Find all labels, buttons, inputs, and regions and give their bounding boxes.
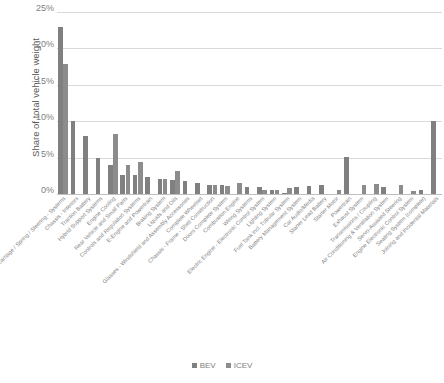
bar-group[interactable] bbox=[430, 12, 442, 194]
bar-icev[interactable] bbox=[213, 185, 218, 194]
legend-swatch-icev bbox=[226, 363, 231, 368]
bar-group[interactable] bbox=[181, 12, 193, 194]
bar-group[interactable] bbox=[218, 12, 230, 194]
bar-group[interactable] bbox=[318, 12, 330, 194]
bar-bev[interactable] bbox=[83, 136, 88, 194]
bar-group[interactable] bbox=[256, 12, 268, 194]
bar-bev[interactable] bbox=[158, 179, 163, 194]
bar-group[interactable] bbox=[368, 12, 380, 194]
bar-group[interactable] bbox=[305, 12, 317, 194]
bar-group[interactable] bbox=[231, 12, 243, 194]
bar-bev[interactable] bbox=[170, 180, 175, 194]
bar-group[interactable] bbox=[94, 12, 106, 194]
bar-icev[interactable] bbox=[163, 179, 168, 194]
bar-bev[interactable] bbox=[245, 187, 250, 194]
bar-bev[interactable] bbox=[431, 121, 436, 194]
bar-icev[interactable] bbox=[113, 134, 118, 194]
plot-area bbox=[57, 12, 442, 194]
bar-group[interactable] bbox=[380, 12, 392, 194]
bar-group[interactable] bbox=[268, 12, 280, 194]
bar-icev[interactable] bbox=[138, 162, 143, 194]
bar-bev[interactable] bbox=[120, 175, 125, 194]
bar-icev[interactable] bbox=[262, 190, 267, 194]
bar-bev[interactable] bbox=[207, 185, 212, 194]
bar-bev[interactable] bbox=[381, 187, 386, 194]
bar-bev[interactable] bbox=[58, 27, 63, 194]
bar-icev[interactable] bbox=[287, 188, 292, 194]
bar-icev[interactable] bbox=[337, 190, 342, 194]
bar-group[interactable] bbox=[243, 12, 255, 194]
bar-bev[interactable] bbox=[282, 193, 287, 194]
bar-icev[interactable] bbox=[374, 184, 379, 194]
bar-icev[interactable] bbox=[175, 171, 180, 194]
bar-bev[interactable] bbox=[257, 187, 262, 194]
bar-group[interactable] bbox=[330, 12, 342, 194]
legend-item-icev[interactable]: ICEV bbox=[226, 361, 253, 370]
bar-series-group bbox=[57, 12, 442, 194]
bar-icev[interactable] bbox=[362, 185, 367, 194]
bar-group[interactable] bbox=[132, 12, 144, 194]
bar-group[interactable] bbox=[194, 12, 206, 194]
bar-group[interactable] bbox=[355, 12, 367, 194]
chart-container: Share of total vehicle weight 0%5%10%15%… bbox=[0, 0, 444, 383]
legend-label-icev: ICEV bbox=[234, 361, 253, 370]
bar-group[interactable] bbox=[293, 12, 305, 194]
bar-group[interactable] bbox=[169, 12, 181, 194]
bar-icev[interactable] bbox=[411, 191, 416, 194]
bar-group[interactable] bbox=[281, 12, 293, 194]
bar-group[interactable] bbox=[392, 12, 404, 194]
y-tick-label: 0% bbox=[41, 186, 54, 195]
bar-bev[interactable] bbox=[220, 185, 225, 194]
bar-group[interactable] bbox=[417, 12, 429, 194]
legend-label-bev: BEV bbox=[200, 361, 216, 370]
bar-bev[interactable] bbox=[145, 177, 150, 194]
bar-bev[interactable] bbox=[319, 185, 324, 194]
legend-swatch-bev bbox=[192, 363, 197, 368]
bar-group[interactable] bbox=[206, 12, 218, 194]
bar-icev[interactable] bbox=[237, 183, 242, 194]
y-tick-label: 20% bbox=[36, 40, 54, 49]
chart-legend: BEV ICEV bbox=[0, 361, 444, 370]
bar-group[interactable] bbox=[144, 12, 156, 194]
bar-icev[interactable] bbox=[225, 186, 230, 194]
bar-bev[interactable] bbox=[108, 165, 113, 194]
bar-group[interactable] bbox=[343, 12, 355, 194]
bar-group[interactable] bbox=[82, 12, 94, 194]
bar-group[interactable] bbox=[57, 12, 69, 194]
bar-bev[interactable] bbox=[307, 186, 312, 194]
bar-bev[interactable] bbox=[71, 121, 76, 194]
legend-item-bev[interactable]: BEV bbox=[192, 361, 216, 370]
bar-group[interactable] bbox=[405, 12, 417, 194]
bar-group[interactable] bbox=[107, 12, 119, 194]
bar-bev[interactable] bbox=[96, 158, 101, 194]
bar-group[interactable] bbox=[119, 12, 131, 194]
bar-bev[interactable] bbox=[270, 190, 275, 194]
bar-bev[interactable] bbox=[183, 181, 188, 194]
y-tick-label: 15% bbox=[36, 76, 54, 85]
bar-group[interactable] bbox=[156, 12, 168, 194]
bar-icev[interactable] bbox=[63, 64, 68, 194]
bar-bev[interactable] bbox=[344, 157, 349, 194]
y-tick-label: 5% bbox=[41, 149, 54, 158]
bar-bev[interactable] bbox=[419, 190, 424, 194]
y-tick-label: 10% bbox=[36, 113, 54, 122]
bar-icev[interactable] bbox=[275, 190, 280, 194]
bar-bev[interactable] bbox=[133, 175, 138, 194]
bar-group[interactable] bbox=[69, 12, 81, 194]
bar-bev[interactable] bbox=[195, 183, 200, 194]
y-axis-tick-labels: 0%5%10%15%20%25% bbox=[18, 8, 54, 196]
bar-bev[interactable] bbox=[294, 187, 299, 194]
bar-icev[interactable] bbox=[399, 185, 404, 194]
bar-icev[interactable] bbox=[126, 165, 131, 194]
y-tick-label: 25% bbox=[36, 4, 54, 13]
